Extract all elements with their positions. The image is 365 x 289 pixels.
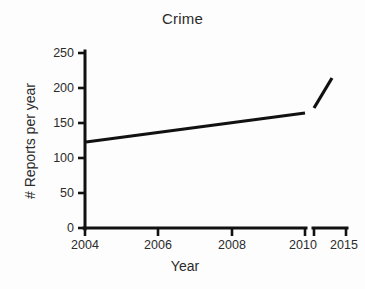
data-line-segment-1 (86, 113, 305, 142)
y-tick-label-200: 200 (46, 81, 74, 95)
x-tick-label-2006: 2006 (144, 238, 172, 252)
y-tick-label-50: 50 (46, 186, 74, 200)
x-tick-label-2004: 2004 (71, 238, 99, 252)
y-axis-label: # Reports per year (22, 41, 38, 241)
x-axis-label: Year (40, 258, 330, 274)
y-tick-label-250: 250 (46, 46, 74, 60)
x-tick-label-2010: 2010 (289, 238, 317, 252)
data-line-segment-2 (314, 78, 332, 108)
x-tick-label-2008: 2008 (218, 238, 246, 252)
y-tick-label-150: 150 (46, 116, 74, 130)
chart-container: Crime 250 200 150 100 50 0 2004 2006 200 (0, 0, 365, 289)
x-tick-label-2015: 2015 (330, 238, 358, 252)
y-tick-label-0: 0 (46, 221, 74, 235)
y-tick-label-100: 100 (46, 151, 74, 165)
